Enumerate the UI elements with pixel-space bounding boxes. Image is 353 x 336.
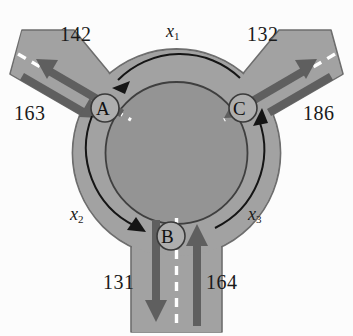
variable-symbol-x2: x (70, 204, 78, 224)
variable-symbol-x1: x (166, 21, 174, 41)
node-label-a: A (96, 99, 110, 118)
diagram-canvas: 142 163 132 186 131 164 x1 x2 x3 A B C (0, 0, 353, 336)
variable-subscript-x2: 2 (78, 213, 84, 225)
variable-symbol-x3: x (248, 204, 256, 224)
variable-label-x3: x3 (248, 205, 262, 223)
variable-subscript-x1: 1 (174, 30, 180, 42)
node-label-c: C (233, 99, 246, 118)
flow-label-132: 132 (247, 24, 279, 44)
flow-label-186: 186 (303, 103, 335, 123)
variable-label-x2: x2 (70, 205, 84, 223)
roundabout-diagram-svg (0, 0, 353, 336)
node-label-b: B (161, 227, 174, 246)
flow-label-142: 142 (60, 24, 92, 44)
flow-label-163: 163 (14, 103, 46, 123)
roundabout-island (106, 82, 248, 224)
flow-label-164: 164 (206, 272, 238, 292)
variable-label-x1: x1 (166, 22, 180, 40)
flow-label-131: 131 (103, 272, 135, 292)
variable-subscript-x3: 3 (256, 213, 262, 225)
